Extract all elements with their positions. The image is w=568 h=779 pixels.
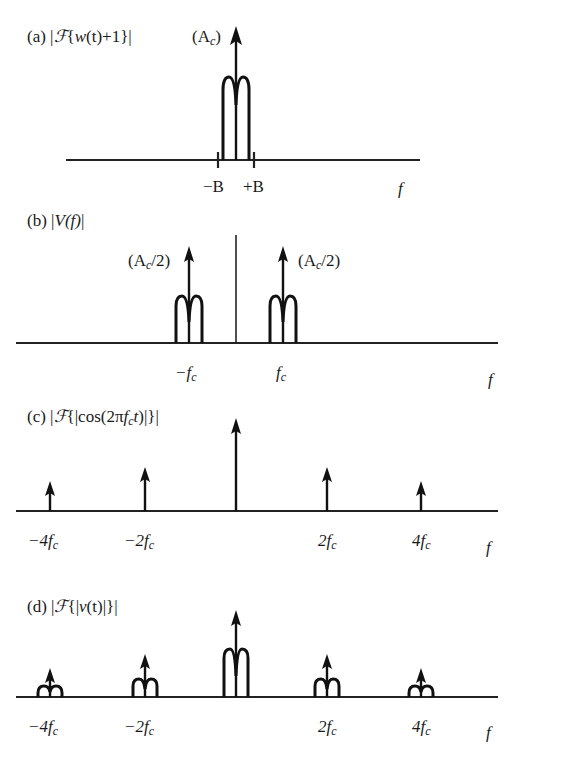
panel-d-title: (d) |ℱ{|v(t)|}|	[27, 597, 118, 616]
tick-label-pos-2fc: 2fc	[318, 531, 337, 552]
panel-b-title: (b) |V(f)|	[27, 211, 84, 230]
tick-label-pos-2fc: 2fc	[318, 717, 337, 738]
spectrum-figure: (a) |ℱ{w(t)+1}| (Ac) −B +B f (b) |V(f)| …	[0, 0, 568, 779]
panel-c-title: (c) |ℱ{|cos(2πfct)|}|	[27, 407, 159, 428]
axis-label-f: f	[486, 538, 493, 557]
tick-label-plus-b: +B	[243, 177, 264, 196]
tick-label-neg-4fc: −4fc	[28, 531, 59, 552]
tick-label-neg-4fc: −4fc	[28, 717, 59, 738]
tick-label-neg-2fc: −2fc	[124, 717, 155, 738]
panel-b: (b) |V(f)| (Ac/2) (Ac/2) −fc fc f	[16, 211, 498, 389]
impulse-amplitude-label: (Ac)	[192, 27, 221, 48]
impulse-label-neg: (Ac/2)	[128, 251, 170, 272]
panel-d: (d) |ℱ{|v(t)|}| −4fc −2fc 2fc 4fc f	[16, 597, 498, 742]
tick-label-pos-4fc: 4fc	[412, 531, 431, 552]
panel-a-title: (a) |ℱ{w(t)+1}|	[27, 27, 132, 46]
impulse-label-pos: (Ac/2)	[298, 251, 340, 272]
panel-c: (c) |ℱ{|cos(2πfct)|}| −4fc −2fc 2fc 4fc …	[16, 407, 498, 557]
tick-label-neg-2fc: −2fc	[124, 531, 155, 552]
tick-label-neg-fc: −fc	[175, 363, 197, 384]
axis-label-f: f	[398, 179, 405, 198]
axis-label-f: f	[486, 723, 493, 742]
tick-label-pos-4fc: 4fc	[412, 717, 431, 738]
axis-label-f: f	[488, 370, 495, 389]
tick-label-pos-fc: fc	[276, 363, 287, 384]
tick-label-minus-b: −B	[203, 177, 224, 196]
panel-a: (a) |ℱ{w(t)+1}| (Ac) −B +B f	[27, 26, 420, 198]
